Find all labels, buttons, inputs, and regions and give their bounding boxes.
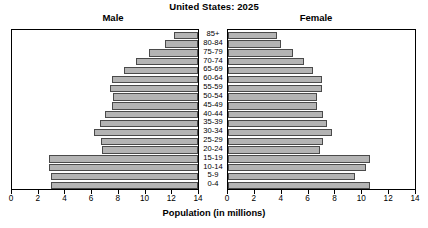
female-bar-5-9 (228, 173, 355, 180)
male-bar-55-59 (110, 85, 198, 92)
axis-tick-label: 0 (216, 194, 238, 204)
male-bar-45-49 (112, 102, 198, 109)
bar-row (228, 93, 415, 102)
axis-tick-label: 2 (243, 194, 265, 204)
male-plot-panel (11, 29, 199, 190)
bar-row (12, 31, 198, 40)
female-plot-panel (227, 29, 416, 190)
male-bar-0-4 (51, 182, 198, 189)
population-pyramid-chart: United States: 2025 Male Female 85+80-84… (0, 0, 428, 228)
bar-row (228, 172, 415, 181)
male-bar-80-84 (165, 40, 198, 47)
female-bar-85plus (228, 32, 277, 39)
bar-row (12, 164, 198, 173)
bar-row (228, 75, 415, 84)
bar-row (228, 128, 415, 137)
bar-row (228, 84, 415, 93)
bar-row (12, 119, 198, 128)
male-bar-65-69 (124, 67, 198, 74)
male-bar-35-39 (100, 120, 198, 127)
bar-row (228, 111, 415, 120)
female-bar-30-34 (228, 129, 332, 136)
female-bar-45-49 (228, 102, 317, 109)
bar-row (12, 172, 198, 181)
x-axis-title: Population (in millions) (0, 208, 428, 219)
bar-row (228, 31, 415, 40)
bar-row (12, 58, 198, 67)
bar-row (12, 49, 198, 58)
male-bar-20-24 (102, 146, 198, 153)
male-panel-label: Male (88, 12, 138, 23)
bar-row (228, 181, 415, 190)
male-x-axis: 14121086420 (11, 190, 199, 208)
axis-tick-label: 4 (53, 194, 75, 204)
axis-tick-label: 2 (27, 194, 49, 204)
male-bar-rows (12, 30, 198, 189)
female-panel-label: Female (288, 12, 344, 23)
bar-row (228, 49, 415, 58)
female-bar-60-64 (228, 76, 322, 83)
bar-row (12, 155, 198, 164)
female-bar-35-39 (228, 120, 327, 127)
male-bar-85plus (174, 32, 198, 39)
bar-row (12, 181, 198, 190)
bar-row (12, 75, 198, 84)
age-label-0-4: 0-4 (199, 180, 227, 189)
axis-tick-label: 4 (270, 194, 292, 204)
bar-row (228, 102, 415, 111)
male-bar-75-79 (149, 49, 198, 56)
female-bar-75-79 (228, 49, 293, 56)
female-bar-80-84 (228, 40, 281, 47)
axis-tick-label: 14 (404, 194, 426, 204)
female-bar-25-29 (228, 138, 323, 145)
female-bar-10-14 (228, 164, 366, 171)
female-bar-40-44 (228, 111, 323, 118)
bar-row (228, 137, 415, 146)
age-group-labels: 85+80-8475-7970-7465-6960-6455-5950-5445… (199, 29, 227, 190)
axis-tick-label: 12 (160, 194, 182, 204)
bar-row (12, 102, 198, 111)
male-bar-30-34 (94, 129, 198, 136)
axis-tick-label: 10 (350, 194, 372, 204)
female-bar-65-69 (228, 67, 313, 74)
male-bar-60-64 (112, 76, 198, 83)
bar-row (228, 119, 415, 128)
axis-tick-label: 8 (323, 194, 345, 204)
bar-row (228, 58, 415, 67)
axis-tick-label: 6 (80, 194, 102, 204)
bar-row (12, 40, 198, 49)
bar-row (228, 164, 415, 173)
bar-row (12, 84, 198, 93)
female-x-axis: 02468101214 (227, 190, 416, 208)
bar-row (12, 137, 198, 146)
male-bar-50-54 (113, 93, 198, 100)
female-bar-20-24 (228, 146, 320, 153)
axis-tick-label: 10 (134, 194, 156, 204)
axis-tick-label: 14 (187, 194, 209, 204)
female-bar-50-54 (228, 93, 317, 100)
female-bar-15-19 (228, 155, 370, 162)
axis-tick-label: 12 (377, 194, 399, 204)
bar-row (228, 155, 415, 164)
axis-tick-label: 8 (107, 194, 129, 204)
bar-row (12, 66, 198, 75)
female-bar-70-74 (228, 58, 304, 65)
bar-row (12, 111, 198, 120)
male-bar-25-29 (101, 138, 198, 145)
male-bar-70-74 (136, 58, 198, 65)
chart-title: United States: 2025 (0, 1, 428, 12)
male-bar-10-14 (49, 164, 198, 171)
bar-row (228, 40, 415, 49)
axis-tick-label: 6 (297, 194, 319, 204)
bar-row (12, 146, 198, 155)
bar-row (12, 93, 198, 102)
female-bar-rows (228, 30, 415, 189)
bar-row (12, 128, 198, 137)
bar-row (228, 66, 415, 75)
male-bar-5-9 (51, 173, 198, 180)
bar-row (228, 146, 415, 155)
female-bar-0-4 (228, 182, 370, 189)
axis-tick-label: 0 (0, 194, 22, 204)
male-bar-15-19 (49, 155, 198, 162)
male-bar-40-44 (105, 111, 198, 118)
